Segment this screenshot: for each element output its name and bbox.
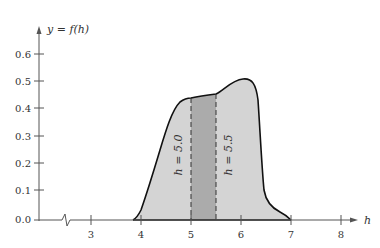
axis-break-icon <box>62 214 70 226</box>
y-tick-0.6: 0.6 <box>15 49 31 60</box>
y-tick-0.2: 0.2 <box>15 158 31 169</box>
shaded-band-5.0-5.5 <box>191 94 216 220</box>
x-tick-6: 6 <box>238 229 244 240</box>
annotation-h-5.5: h = 5.5 <box>222 135 235 176</box>
density-chart: 0.6 0.5 0.4 0.3 0.2 0.1 0.0 y = f(h) 3 4… <box>0 0 380 248</box>
x-tick-5: 5 <box>188 229 194 240</box>
y-tick-0.0: 0.0 <box>15 214 31 225</box>
y-axis: 0.6 0.5 0.4 0.3 0.2 0.1 0.0 y = f(h) <box>15 23 89 225</box>
annotation-h-5.0: h = 5.0 <box>172 135 185 176</box>
x-tick-7: 7 <box>288 229 294 240</box>
x-tick-4: 4 <box>138 229 144 240</box>
y-tick-0.1: 0.1 <box>15 185 31 196</box>
x-axis-title: h <box>364 214 371 227</box>
x-tick-3: 3 <box>88 229 94 240</box>
y-tick-0.3: 0.3 <box>15 131 31 142</box>
x-tick-8: 8 <box>338 229 344 240</box>
y-axis-title: y = f(h) <box>46 23 89 36</box>
y-tick-0.4: 0.4 <box>15 103 31 114</box>
y-tick-0.5: 0.5 <box>15 76 31 87</box>
